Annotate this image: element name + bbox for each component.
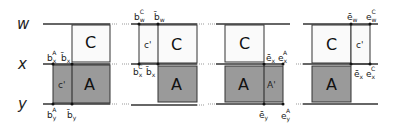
label-C: C [326,35,337,54]
label-bAx: bxA [47,49,57,64]
label-cprime: c' [58,80,65,90]
panel-1: C A c' bxA b̄x byA b̄y [43,24,118,122]
label-bCx: bxC [133,63,143,78]
label-eAx: exA [278,49,288,64]
label-eAy: eyA [281,107,291,123]
label-bCw: bwC [134,8,145,23]
label-A: A [326,75,337,94]
row-label-w: w [17,15,30,33]
label-ebar-x: ēx [266,53,276,64]
label-cprime: c' [356,40,363,50]
label-cprime: c' [144,40,151,50]
label-bbar-w: b̄w [153,11,164,23]
label-Aprime: A' [267,80,276,90]
label-ebar-y: ēy [259,110,269,122]
label-C: C [171,35,182,54]
label-A: A [171,75,182,94]
label-bbar-x: b̄x [60,52,70,64]
row-label-y: y [17,95,28,113]
panel-2: C c' A bwC b̄w bxC b̄x [122,8,205,105]
panel-3: C A A' ēx exA ēy eyA [208,24,304,123]
label-A: A [238,75,249,94]
label-bbar-x: b̄x [145,66,155,78]
panel-4: C c' A ēw ewC ēx exC [303,8,378,104]
label-eCw: ewC [366,8,377,23]
label-bAy: byA [47,106,57,122]
label-ebar-w: ēw [347,12,358,23]
label-bbar-y: b̄y [66,109,76,122]
label-C: C [85,33,96,52]
row-label-x: x [17,55,27,73]
label-eCx: exC [366,65,376,80]
label-C: C [239,34,250,53]
label-ebar-x: ēx [354,69,364,80]
diagram-canvas: w x y C A c' bxA b̄x byA b̄y [0,0,400,131]
label-A: A [84,75,95,94]
